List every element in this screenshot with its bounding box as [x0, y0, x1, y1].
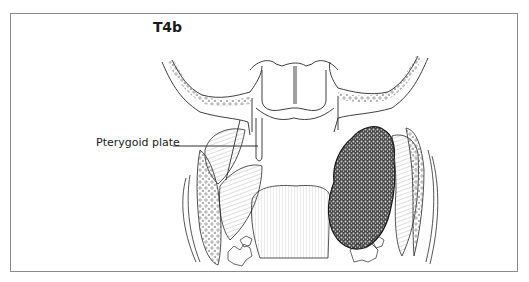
right-pterygoid-muscles [392, 128, 438, 264]
tumor-mass [328, 127, 394, 249]
anatomical-illustration [0, 0, 529, 282]
tongue [251, 186, 330, 259]
skull-base [162, 56, 428, 135]
left-lymphoid-tissue [228, 236, 252, 266]
